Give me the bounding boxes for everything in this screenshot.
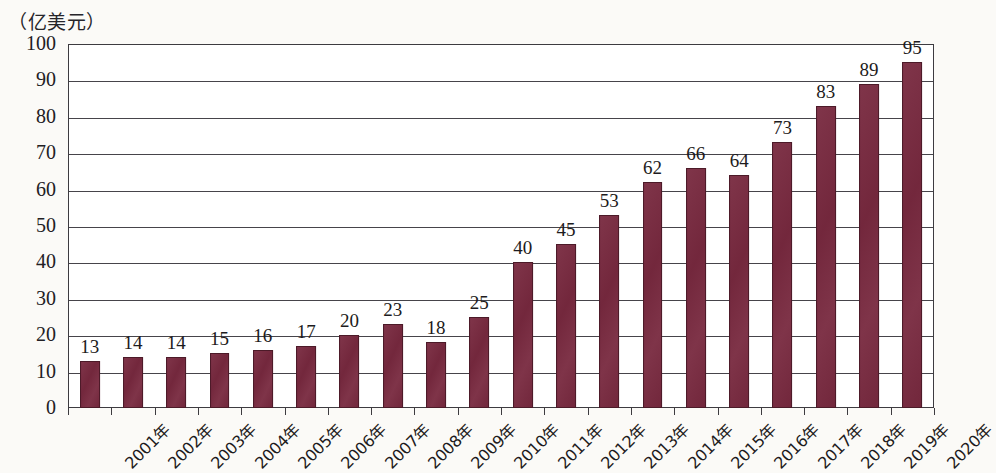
- x-axis-tick-label: 2004年: [248, 417, 304, 473]
- gridline: [69, 118, 933, 119]
- x-axis-tick-label: 2002年: [161, 417, 217, 473]
- x-axis-tick-label: 2016年: [768, 417, 824, 473]
- x-axis-tick-mark: [68, 408, 69, 415]
- x-axis-tick-label: 2012年: [594, 417, 650, 473]
- x-axis-tick-label: 2017年: [811, 417, 867, 473]
- y-axis-tick-labels: 0102030405060708090100: [0, 44, 64, 408]
- x-axis-tick-mark: [718, 408, 719, 415]
- x-axis-tick-mark: [761, 408, 762, 415]
- y-axis-tick-label: 60: [36, 178, 56, 201]
- y-axis-tick-label: 50: [36, 214, 56, 237]
- gridline: [69, 154, 933, 155]
- x-axis-tick-mark: [241, 408, 242, 415]
- x-axis-tick-label: 2009年: [464, 417, 520, 473]
- x-axis: 2001年2002年2003年2004年2005年2006年2007年2008年…: [68, 408, 934, 464]
- x-axis-tick-mark: [544, 408, 545, 415]
- unit-caption: （亿美元）: [8, 7, 106, 34]
- y-axis-tick-label: 10: [36, 360, 56, 383]
- y-axis-tick-label: 80: [36, 105, 56, 128]
- y-axis-tick-label: 20: [36, 323, 56, 346]
- x-axis-tick-label: 2014年: [681, 417, 737, 473]
- gridline: [69, 227, 933, 228]
- x-axis-tick-mark: [847, 408, 848, 415]
- gridline: [69, 263, 933, 264]
- x-axis-tick-mark: [155, 408, 156, 415]
- x-axis-tick-label: 2013年: [638, 417, 694, 473]
- gridline: [69, 373, 933, 374]
- x-axis-tick-label: 2001年: [118, 417, 174, 473]
- x-axis-tick-mark: [285, 408, 286, 415]
- x-axis-tick-mark: [414, 408, 415, 415]
- x-axis-tick-label: 2018年: [854, 417, 910, 473]
- x-axis-tick-label: 2006年: [335, 417, 391, 473]
- x-axis-tick-mark: [458, 408, 459, 415]
- x-axis-tick-label: 2003年: [205, 417, 261, 473]
- y-axis-tick-label: 40: [36, 250, 56, 273]
- y-axis-tick-label: 100: [26, 32, 56, 55]
- plot-area: [68, 44, 934, 408]
- x-axis-tick-mark: [891, 408, 892, 415]
- x-axis-tick-label: 2015年: [724, 417, 780, 473]
- x-axis-tick-mark: [674, 408, 675, 415]
- gridline: [69, 81, 933, 82]
- x-axis-tick-mark: [328, 408, 329, 415]
- y-axis-tick-label: 0: [46, 396, 56, 419]
- y-axis-tick-label: 90: [36, 68, 56, 91]
- y-axis-tick-label: 30: [36, 287, 56, 310]
- gridline: [69, 300, 933, 301]
- x-axis-tick-mark: [588, 408, 589, 415]
- x-axis-tick-mark: [804, 408, 805, 415]
- x-axis-tick-label: 2019年: [897, 417, 953, 473]
- x-axis-tick-mark: [501, 408, 502, 415]
- gridline: [69, 191, 933, 192]
- x-axis-tick-mark: [371, 408, 372, 415]
- x-axis-tick-mark: [631, 408, 632, 415]
- x-axis-tick-mark: [111, 408, 112, 415]
- x-axis-tick-label: 2011年: [551, 417, 607, 473]
- x-axis-tick-mark: [198, 408, 199, 415]
- gridline: [69, 336, 933, 337]
- y-axis-tick-label: 70: [36, 141, 56, 164]
- x-axis-tick-label: 2005年: [291, 417, 347, 473]
- x-axis-tick-label: 2007年: [378, 417, 434, 473]
- x-axis-tick-label: 2008年: [421, 417, 477, 473]
- x-axis-tick-mark: [934, 408, 935, 415]
- x-axis-tick-label: 2020年: [941, 417, 996, 473]
- x-axis-tick-label: 2010年: [508, 417, 564, 473]
